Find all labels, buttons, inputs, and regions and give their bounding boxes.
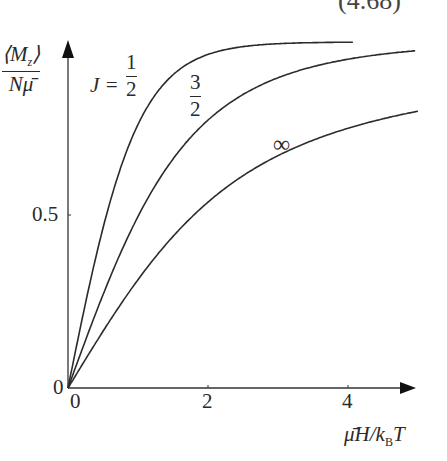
curve-label-j-infinity: ∞	[273, 132, 290, 156]
curve-label-j-half: 12	[126, 52, 137, 100]
x-tick-label-2: 2	[202, 391, 213, 412]
curve-j-infinity	[68, 111, 418, 388]
origin-y-label: 0	[53, 377, 64, 398]
y-tick-label-0.5: 0.5	[32, 204, 58, 225]
x-axis-arrow-icon	[400, 382, 416, 394]
y-axis-label-numerator: ⟨Mz⟩	[2, 44, 40, 68]
curve-label-j-prefix: J =	[90, 75, 119, 96]
curve-label-j-three-halves: 32	[190, 72, 201, 120]
origin-x-label: 0	[70, 391, 81, 412]
curve-j-three-halves	[68, 51, 415, 388]
y-axis-arrow-icon	[62, 40, 74, 58]
x-axis-label: μ̄H/kBT	[344, 424, 405, 448]
chart-canvas	[0, 0, 447, 461]
y-axis-label: ⟨Mz⟩ Nμ̄	[2, 44, 40, 95]
x-tick-label-4: 4	[342, 391, 353, 412]
y-axis-label-denominator: Nμ̄	[9, 74, 34, 95]
